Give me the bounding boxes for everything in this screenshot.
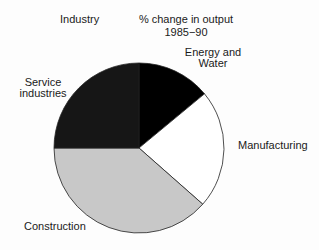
label-service-line2: industries <box>18 88 68 99</box>
industry-header: Industry <box>60 14 99 25</box>
label-manufacturing: Manufacturing <box>238 140 308 151</box>
chart-title: % change in output 1985−90 <box>136 14 236 38</box>
label-energy-line2: Water <box>183 58 243 69</box>
label-energy-water: Energy and Water <box>183 47 243 69</box>
label-construction: Construction <box>24 221 86 232</box>
label-service-industries: Service industries <box>18 77 68 99</box>
slice-service-industries <box>54 63 139 148</box>
chart-title-line1: % change in output <box>136 14 236 25</box>
chart-title-line2: 1985−90 <box>136 27 236 38</box>
